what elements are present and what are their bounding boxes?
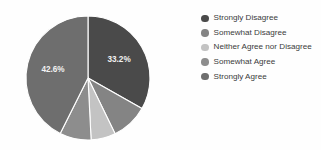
pie-plot-area: 33.2%42.6%	[0, 0, 185, 150]
legend-swatch-icon	[201, 44, 209, 52]
legend-item-label: Neither Agree nor Disagree	[214, 43, 312, 51]
legend-item[interactable]: Somewhat Disagree	[201, 26, 321, 41]
legend-swatch-icon	[201, 58, 209, 66]
pie-slice-group	[26, 16, 150, 140]
pie-slice-label: 33.2%	[107, 55, 131, 64]
legend-swatch-icon	[201, 15, 209, 23]
legend-item[interactable]: Neither Agree nor Disagree	[201, 40, 321, 55]
legend-swatch-icon	[201, 73, 209, 81]
legend-item[interactable]: Strongly Disagree	[201, 11, 321, 26]
legend-item[interactable]: Strongly Agree	[201, 69, 321, 84]
legend-item-label: Somewhat Agree	[214, 58, 276, 66]
legend-swatch-icon	[201, 29, 209, 37]
legend-item-label: Strongly Agree	[214, 73, 267, 81]
legend-item-label: Strongly Disagree	[214, 14, 278, 22]
pie-chart-figure: 33.2%42.6% Strongly DisagreeSomewhat Dis…	[0, 0, 321, 150]
pie-slice-label: 42.6%	[41, 65, 65, 74]
pie-svg: 33.2%42.6%	[0, 0, 185, 150]
legend-item-label: Somewhat Disagree	[214, 29, 287, 37]
legend-item[interactable]: Somewhat Agree	[201, 55, 321, 70]
chart-legend: Strongly DisagreeSomewhat DisagreeNeithe…	[201, 11, 321, 84]
